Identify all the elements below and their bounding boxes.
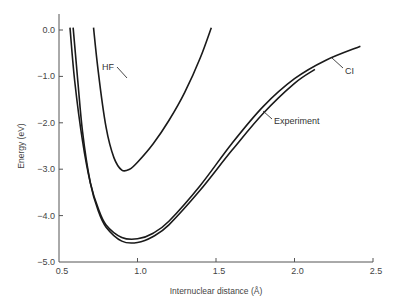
y-tick-label: −2.0	[37, 118, 55, 128]
y-tick-label: −4.0	[37, 211, 55, 221]
y-tick-label: 0.0	[42, 25, 55, 35]
axes: 0.0−1.0−2.0−3.0−4.0−5.00.51.01.52.02.5	[37, 14, 382, 276]
y-tick-label: −5.0	[37, 257, 55, 267]
annotation-hf: HF	[102, 62, 114, 72]
curve-ci	[70, 28, 360, 240]
x-tick-label: 0.5	[56, 266, 69, 276]
x-tick-label: 1.0	[134, 266, 147, 276]
x-tick-label: 2.0	[291, 266, 304, 276]
curves	[70, 28, 360, 243]
y-tick-label: −3.0	[37, 164, 55, 174]
curve-hf	[94, 28, 212, 171]
y-tick-label: −1.0	[37, 71, 55, 81]
annotation-experiment: Experiment	[274, 116, 320, 126]
x-tick-label: 1.5	[213, 266, 226, 276]
leader-line-experiment	[263, 111, 272, 119]
leader-line-ci	[332, 58, 343, 68]
potential-energy-chart: 0.0−1.0−2.0−3.0−4.0−5.00.51.01.52.02.5 H…	[0, 0, 397, 304]
annotations: HFCIExperiment	[102, 58, 354, 126]
x-tick-label: 2.5	[370, 266, 383, 276]
x-axis-title: Internuclear distance (Å)	[170, 286, 263, 296]
leader-line-hf	[117, 67, 127, 78]
curve-experiment	[73, 28, 315, 243]
annotation-ci: CI	[345, 66, 354, 76]
y-axis-title: Energy (eV)	[16, 123, 26, 169]
